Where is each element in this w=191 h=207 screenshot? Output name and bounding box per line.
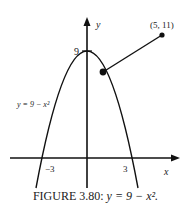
distance-segment: [103, 35, 162, 72]
caption-math: y = 9 − x².: [107, 189, 158, 203]
equation-label: y = 9 − x²: [16, 100, 50, 109]
curve-point-dot: [100, 69, 107, 76]
tick-label-neg3: −3: [45, 164, 55, 174]
y-axis-label: y: [95, 19, 101, 30]
figure-caption: FIGURE 3.80: y = 9 − x².: [0, 189, 191, 204]
x-axis-arrow-icon: [171, 155, 180, 162]
parabola-diagram: y x 9 −3 3 (5, 11) y = 9 − x²: [0, 0, 191, 207]
x-axis-label: x: [163, 166, 169, 177]
point-label: (5, 11): [150, 20, 174, 30]
tick-label-9: 9: [74, 46, 79, 57]
target-point-dot: [159, 32, 164, 37]
tick-label-3: 3: [123, 164, 128, 174]
y-axis-arrow-icon: [84, 17, 91, 26]
caption-prefix: FIGURE 3.80:: [33, 189, 107, 203]
